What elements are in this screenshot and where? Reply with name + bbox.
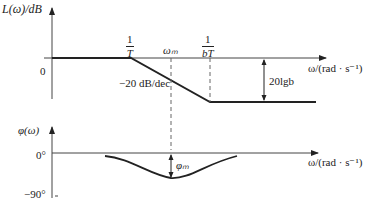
phi-m-label: φₘ [176,160,189,171]
phase-minus90-label: −90° [24,189,46,200]
corner2-label: 1 bT [202,34,214,59]
phase-zero-label: 0° [36,150,46,161]
phase-y-axis-label: φ(ω) [18,125,39,136]
mag-zero-label: 0 [40,66,46,77]
bode-diagram-graphics [0,0,369,205]
phase-x-axis-label: ω/(rad · s⁻¹) [308,157,362,168]
mag-y-axis-label: L(ω)/dB [2,3,42,15]
omega-m-label: ωₘ [163,45,178,56]
gain-label: 20lgb [269,76,294,87]
corner1-label: 1 T [126,34,134,59]
slope-label: −20 dB/dec [119,78,170,89]
mag-x-axis-label: ω/(rad · s⁻¹) [308,63,362,74]
